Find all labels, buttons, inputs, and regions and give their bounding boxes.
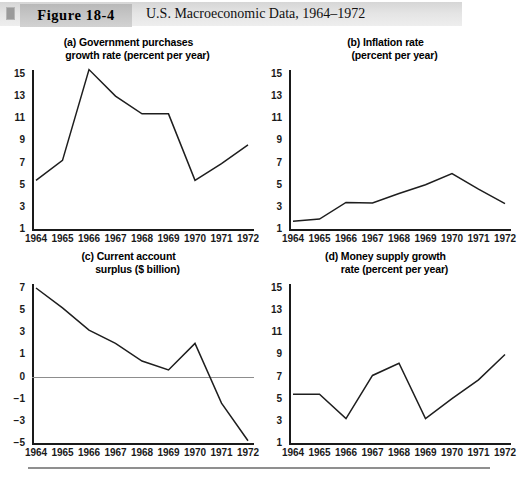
chart-title-line1: (c) Current account bbox=[82, 250, 176, 262]
bottom-rule bbox=[28, 467, 490, 469]
y-tick-label: 3 bbox=[262, 202, 282, 212]
x-tick-label: 1972 bbox=[492, 447, 518, 458]
series-line-b bbox=[289, 74, 501, 229]
plot-area-b: 1513119753119641965196619671968196919701… bbox=[289, 74, 501, 229]
x-axis-line bbox=[32, 229, 254, 231]
y-tick-label: 7 bbox=[5, 158, 25, 168]
y-tick-label: 15 bbox=[5, 69, 25, 79]
x-tick-label: 1968 bbox=[129, 447, 155, 458]
figure-number-label: Figure 18-4 bbox=[37, 7, 115, 24]
chart-panel-d: (d) Money supply growthrate (percent per… bbox=[257, 250, 514, 464]
x-tick-label: 1970 bbox=[182, 447, 208, 458]
y-tick-label: 5 bbox=[262, 394, 282, 404]
x-tick-label: 1968 bbox=[386, 447, 412, 458]
x-tick-label: 1965 bbox=[307, 447, 333, 458]
chart-title-line1: (a) Government purchases bbox=[64, 36, 193, 48]
chart-title-c: (c) Current accountsurplus ($ billion) bbox=[0, 250, 257, 275]
y-tick-label: 5 bbox=[5, 305, 25, 315]
x-tick-label: 1971 bbox=[209, 233, 235, 244]
figure-caption: U.S. Macroeconomic Data, 1964–1972 bbox=[146, 6, 365, 22]
x-tick-label: 1965 bbox=[307, 233, 333, 244]
x-tick-label: 1964 bbox=[23, 233, 49, 244]
chart-title-line1: (d) Money supply growth bbox=[325, 250, 446, 262]
y-tick-label: 5 bbox=[262, 180, 282, 190]
x-axis-line bbox=[289, 229, 511, 231]
y-tick-label: 7 bbox=[262, 372, 282, 382]
x-axis-line bbox=[32, 443, 254, 445]
y-tick-label: 13 bbox=[262, 91, 282, 101]
x-tick-label: 1971 bbox=[466, 233, 492, 244]
y-tick-label: 1 bbox=[5, 349, 25, 359]
x-axis-line bbox=[289, 443, 511, 445]
y-tick-label: 9 bbox=[5, 135, 25, 145]
series-line-a bbox=[32, 74, 244, 229]
y-tick-label: 7 bbox=[262, 158, 282, 168]
x-tick-label: 1969 bbox=[413, 447, 439, 458]
y-tick-label: −3 bbox=[5, 416, 25, 426]
y-tick-label: 15 bbox=[262, 283, 282, 293]
y-tick-label: 9 bbox=[262, 135, 282, 145]
x-tick-label: 1970 bbox=[439, 447, 465, 458]
x-tick-label: 1967 bbox=[360, 233, 386, 244]
y-tick-label: 11 bbox=[262, 327, 282, 337]
y-tick-label: 11 bbox=[262, 113, 282, 123]
y-tick-label: 9 bbox=[262, 349, 282, 359]
x-tick-label: 1967 bbox=[360, 447, 386, 458]
y-tick-label: 5 bbox=[5, 180, 25, 190]
x-tick-label: 1970 bbox=[182, 233, 208, 244]
y-tick-label: −5 bbox=[5, 438, 25, 448]
x-tick-label: 1965 bbox=[50, 233, 76, 244]
x-tick-label: 1966 bbox=[333, 447, 359, 458]
chart-title-b: (b) Inflation rate(percent per year) bbox=[257, 36, 514, 61]
series-path bbox=[293, 354, 505, 418]
chart-title-line2: surplus ($ billion) bbox=[0, 263, 257, 276]
y-tick-label: 3 bbox=[5, 202, 25, 212]
chart-panel-c: (c) Current accountsurplus ($ billion)75… bbox=[0, 250, 257, 464]
x-tick-label: 1965 bbox=[50, 447, 76, 458]
x-tick-label: 1966 bbox=[333, 233, 359, 244]
x-tick-label: 1966 bbox=[76, 233, 102, 244]
plot-area-d: 1513119753119641965196619671968196919701… bbox=[289, 288, 501, 443]
x-tick-label: 1971 bbox=[209, 447, 235, 458]
series-path bbox=[36, 70, 248, 181]
chart-title-d: (d) Money supply growthrate (percent per… bbox=[257, 250, 514, 275]
x-tick-label: 1967 bbox=[103, 447, 129, 458]
figure-number-box: Figure 18-4 bbox=[20, 4, 132, 27]
chart-title-line2: (percent per year) bbox=[257, 49, 514, 62]
plot-area-c: 75310−1−3−519641965196619671968196919701… bbox=[32, 288, 244, 443]
chart-panel-a: (a) Government purchasesgrowth rate (per… bbox=[0, 36, 257, 250]
x-tick-label: 1969 bbox=[156, 447, 182, 458]
y-tick-label: 1 bbox=[5, 224, 25, 234]
y-tick-label: 3 bbox=[5, 327, 25, 337]
series-line-d bbox=[289, 288, 501, 443]
series-line-c bbox=[32, 288, 244, 443]
x-tick-label: 1968 bbox=[129, 233, 155, 244]
x-tick-label: 1971 bbox=[466, 447, 492, 458]
x-tick-label: 1967 bbox=[103, 233, 129, 244]
x-tick-label: 1966 bbox=[76, 447, 102, 458]
y-tick-label: 7 bbox=[5, 283, 25, 293]
plot-area-a: 1513119753119641965196619671968196919701… bbox=[32, 74, 244, 229]
x-tick-label: 1964 bbox=[280, 233, 306, 244]
y-tick-label: 13 bbox=[5, 91, 25, 101]
x-tick-label: 1972 bbox=[492, 233, 518, 244]
y-tick-label: 11 bbox=[5, 113, 25, 123]
series-path bbox=[36, 288, 248, 441]
x-tick-label: 1969 bbox=[413, 233, 439, 244]
x-tick-label: 1969 bbox=[156, 233, 182, 244]
charts-container: (a) Government purchasesgrowth rate (per… bbox=[0, 36, 514, 464]
y-tick-label: −1 bbox=[5, 394, 25, 404]
y-tick-label: 0 bbox=[5, 372, 25, 382]
y-tick-label: 1 bbox=[262, 438, 282, 448]
x-tick-label: 1964 bbox=[23, 447, 49, 458]
chart-title-line2: growth rate (percent per year) bbox=[0, 49, 257, 62]
x-tick-label: 1968 bbox=[386, 233, 412, 244]
chart-title-line1: (b) Inflation rate bbox=[347, 36, 424, 48]
figure-header-band: Figure 18-4 U.S. Macroeconomic Data, 196… bbox=[0, 2, 462, 26]
chart-title-line2: rate (percent per year) bbox=[257, 263, 514, 276]
chart-panel-b: (b) Inflation rate(percent per year)1513… bbox=[257, 36, 514, 250]
chart-title-a: (a) Government purchasesgrowth rate (per… bbox=[0, 36, 257, 61]
y-tick-label: 3 bbox=[262, 416, 282, 426]
y-tick-label: 13 bbox=[262, 305, 282, 315]
x-tick-label: 1964 bbox=[280, 447, 306, 458]
